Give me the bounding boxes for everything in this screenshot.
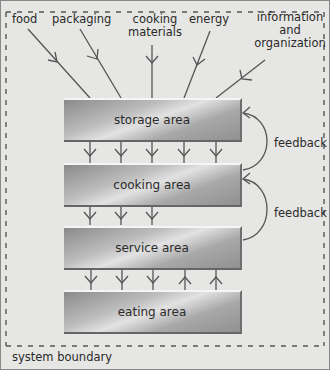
input-label-energy: energy [189, 13, 229, 26]
box-label: cooking area [113, 178, 190, 192]
box-label: eating area [118, 305, 187, 319]
label-line: materials [128, 26, 182, 39]
box-label: storage area [114, 113, 190, 127]
storage-area-box: storage area [64, 98, 242, 142]
input-label-information: information and organization [252, 11, 328, 50]
input-label-packaging: packaging [52, 13, 111, 26]
system-boundary-label: system boundary [12, 351, 112, 364]
feedback-label-1: feedback [274, 137, 327, 150]
feedback-label-2: feedback [274, 207, 327, 220]
service-area-box: service area [64, 226, 242, 270]
label-line: organization [252, 37, 328, 50]
box-label: service area [115, 241, 189, 255]
input-label-cooking-materials: cooking materials [128, 13, 182, 39]
cooking-area-box: cooking area [64, 163, 242, 207]
eating-area-box: eating area [64, 290, 242, 334]
input-label-food: food [12, 13, 37, 26]
